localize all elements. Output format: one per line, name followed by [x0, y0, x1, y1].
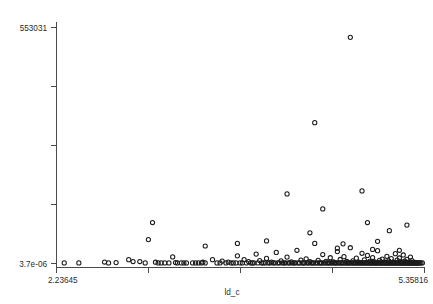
data-point [354, 256, 358, 260]
data-point [295, 248, 299, 252]
x-axis-min-label: 2.23645 [48, 276, 78, 285]
data-point [387, 229, 391, 233]
data-point [210, 258, 214, 262]
data-point [171, 255, 175, 259]
data-point [348, 246, 352, 250]
data-point [274, 250, 278, 254]
data-point [131, 259, 135, 263]
data-point [313, 241, 317, 245]
data-point [62, 261, 66, 265]
data-point [114, 260, 118, 264]
data-point [348, 35, 352, 39]
data-point [321, 252, 325, 256]
data-point [203, 244, 207, 248]
data-point [371, 255, 375, 259]
data-point [308, 231, 312, 235]
data-point [264, 239, 268, 243]
data-point [313, 121, 317, 125]
data-point [235, 241, 239, 245]
data-point [342, 255, 346, 259]
data-point [285, 255, 289, 259]
data-point [385, 254, 389, 258]
data-point [234, 261, 238, 265]
data-point [285, 192, 289, 196]
data-point [405, 223, 409, 227]
data-point [365, 253, 369, 257]
data-point [127, 258, 131, 262]
data-point [138, 259, 142, 263]
data-point [341, 242, 345, 246]
scatter-plot-figure: 553031 3.7e-06 2.23645 5.35816 ld_c [0, 0, 433, 304]
data-point [304, 257, 308, 261]
data-point [375, 239, 379, 243]
data-point [360, 189, 364, 193]
data-point [143, 261, 147, 265]
data-point [106, 261, 110, 265]
data-point [150, 220, 154, 224]
data-point [235, 254, 239, 258]
data-points-layer [62, 35, 424, 265]
x-axis-title: ld_c [224, 288, 239, 297]
plot-canvas: 553031 3.7e-06 2.23645 5.35816 ld_c [0, 0, 433, 304]
data-point [371, 247, 375, 251]
data-point [401, 253, 405, 257]
x-axis-max-label: 5.35816 [398, 276, 428, 285]
data-point [365, 220, 369, 224]
data-point [397, 248, 401, 252]
axis-frame [56, 22, 425, 268]
data-point [360, 251, 364, 255]
data-point [146, 238, 150, 242]
data-point [321, 207, 325, 211]
data-point [328, 256, 332, 260]
data-point [375, 249, 379, 253]
data-point [77, 261, 81, 265]
data-point [264, 256, 268, 260]
y-axis-max-label: 553031 [20, 24, 48, 33]
data-point [254, 252, 258, 256]
data-point [167, 261, 171, 265]
y-axis-min-label: 3.7e-06 [19, 260, 47, 269]
data-point [393, 252, 397, 256]
y-axis-ticks [51, 28, 56, 264]
